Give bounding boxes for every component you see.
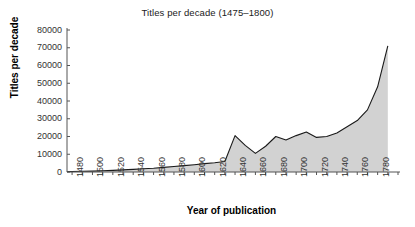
x-tick-label: 1560 <box>158 157 167 177</box>
y-tick-label: 80000 <box>24 26 62 35</box>
y-tick-label: 20000 <box>24 132 62 141</box>
x-tick-label: 1660 <box>259 157 268 177</box>
x-tick-label: 1760 <box>361 157 370 177</box>
x-tick-label: 1600 <box>198 157 207 177</box>
y-tick-label: 30000 <box>24 114 62 123</box>
area-series <box>67 46 388 172</box>
y-tick-label: 40000 <box>24 97 62 106</box>
plot-area <box>0 0 415 227</box>
x-tick-label: 1700 <box>300 157 309 177</box>
x-tick-label: 1480 <box>76 157 85 177</box>
x-tick-label: 1780 <box>382 157 391 177</box>
y-tick-label: 70000 <box>24 43 62 52</box>
area-fill <box>67 46 388 172</box>
x-tick-label: 1620 <box>219 157 228 177</box>
x-tick-label: 1580 <box>178 157 187 177</box>
y-tick-label: 60000 <box>24 61 62 70</box>
y-tick-label: 50000 <box>24 79 62 88</box>
x-tick-label: 1540 <box>137 157 146 177</box>
x-tick-label: 1680 <box>280 157 289 177</box>
x-tick-label: 1640 <box>239 157 248 177</box>
x-tick-label: 1740 <box>341 157 350 177</box>
x-tick-label: 1720 <box>321 157 330 177</box>
chart-figure: Titles per decade (1475–1800) Titles per… <box>0 0 415 227</box>
y-tick-label: 0 <box>24 168 62 177</box>
y-tick-label: 10000 <box>24 150 62 159</box>
x-tick-label: 1500 <box>96 157 105 177</box>
x-tick-label: 1520 <box>117 157 126 177</box>
